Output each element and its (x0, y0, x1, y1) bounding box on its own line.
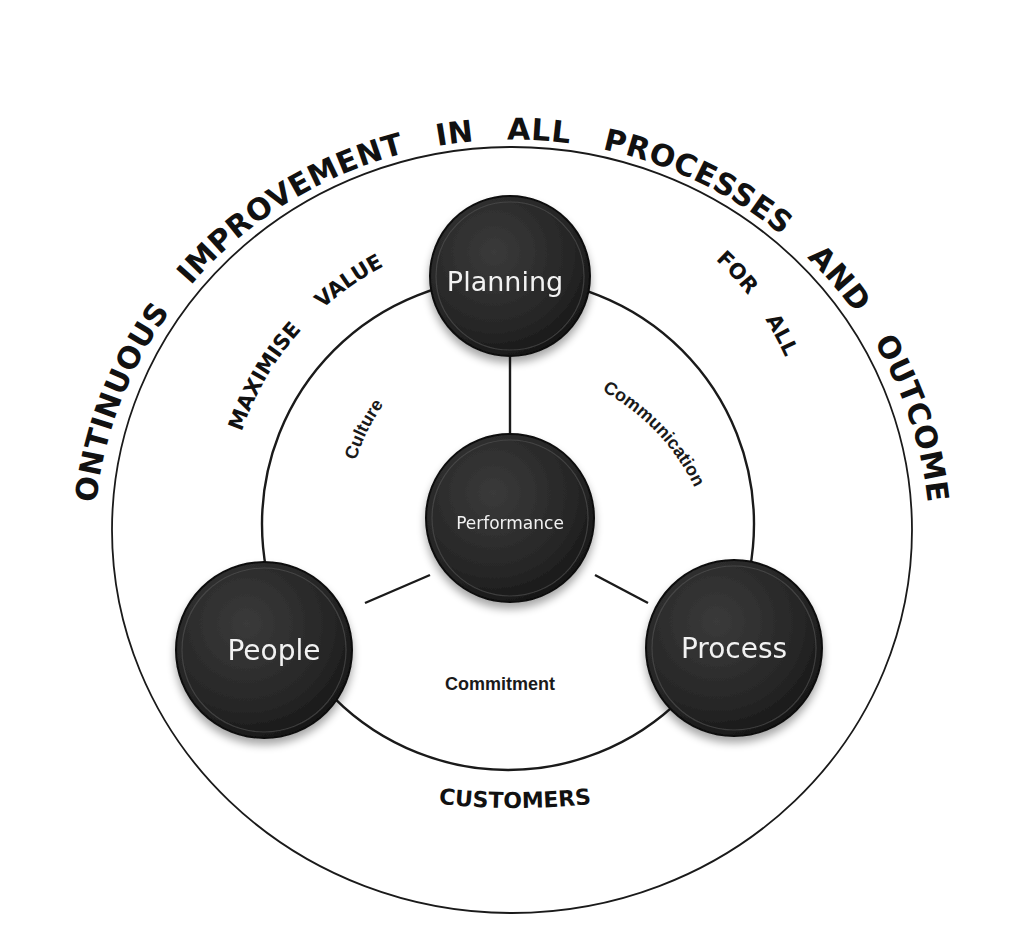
node-planning-label: Planning (447, 266, 563, 297)
connector-performance-process (595, 575, 648, 603)
middle-ring-right-label: FOR ALL (712, 246, 803, 359)
inner-ring-right-label: Communication (600, 377, 709, 490)
node-people-label: People (227, 634, 320, 667)
node-process-label: Process (681, 632, 787, 665)
middle-ring-left-label: MAXIMISE VALUE (224, 249, 387, 433)
node-performance-label: Performance (456, 513, 564, 533)
performance-framework-diagram: CONTINUOUS IMPROVEMENT IN ALL PROCESSES … (0, 0, 1020, 951)
node-process: Process (646, 560, 822, 736)
node-people: People (176, 562, 352, 738)
node-planning: Planning (430, 196, 590, 356)
node-performance: Performance (426, 434, 594, 602)
inner-ring-left-label: Culture (341, 395, 388, 462)
connector-performance-people (365, 575, 430, 603)
inner-ring-bottom-label: Commitment (445, 674, 555, 694)
outer-ring-bottom-label: CUSTOMERS (438, 784, 592, 813)
